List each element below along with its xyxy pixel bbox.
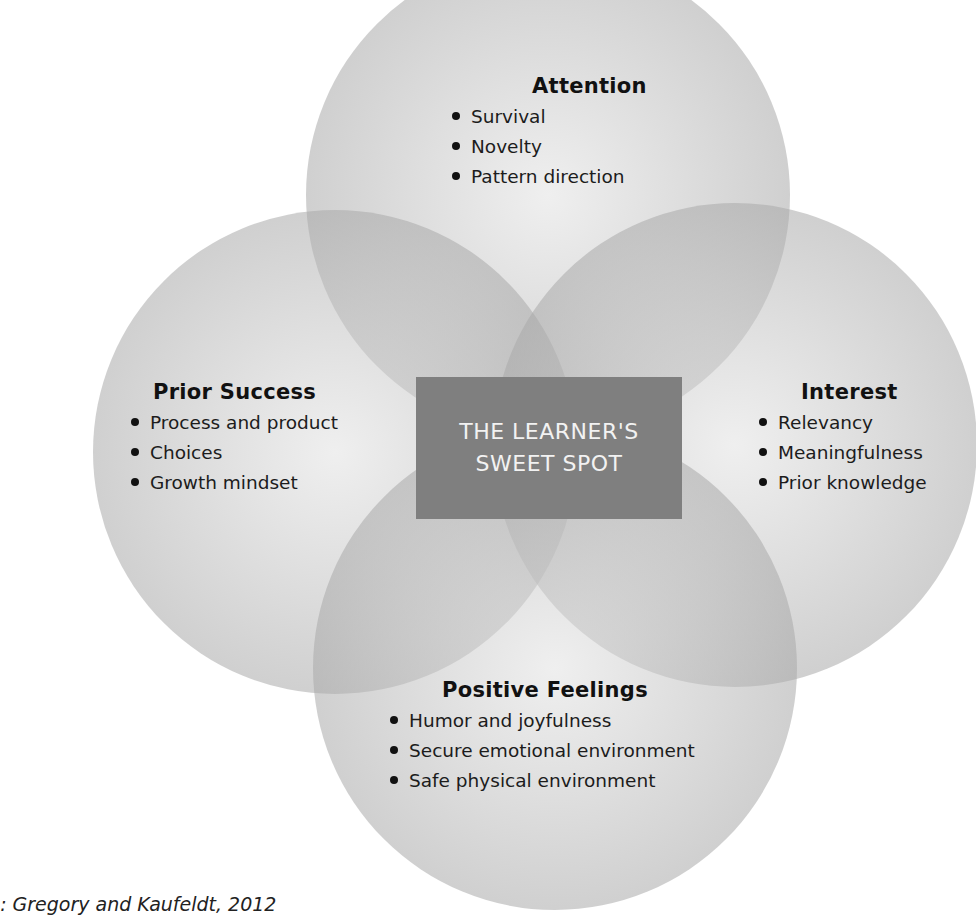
list-item: Survival xyxy=(452,102,647,132)
interest-title: Interest xyxy=(801,380,927,404)
source-caption: ce: Gregory and Kaufeldt, 2012 xyxy=(0,893,276,915)
bullet-icon xyxy=(390,746,398,754)
bullet-icon xyxy=(390,776,398,784)
list-item: Secure emotional environment xyxy=(390,736,695,766)
positive-feelings-group: Positive Feelings Humor and joyfulness S… xyxy=(390,678,695,796)
list-item: Choices xyxy=(131,438,338,468)
sweet-spot-line2: SWEET SPOT xyxy=(476,448,623,480)
bullet-icon xyxy=(452,142,460,150)
prior-success-title: Prior Success xyxy=(153,380,338,404)
list-item: Growth mindset xyxy=(131,468,338,498)
prior-success-group: Prior Success Process and product Choice… xyxy=(131,380,338,498)
bullet-icon xyxy=(452,112,460,120)
list-item: Relevancy xyxy=(759,408,927,438)
bullet-icon xyxy=(759,448,767,456)
positive-feelings-title: Positive Feelings xyxy=(442,678,695,702)
list-item: Prior knowledge xyxy=(759,468,927,498)
attention-list: Survival Novelty Pattern direction xyxy=(452,102,647,192)
sweet-spot-line1: THE LEARNER'S xyxy=(459,416,639,448)
list-item: Humor and joyfulness xyxy=(390,706,695,736)
attention-title: Attention xyxy=(532,74,647,98)
list-item: Safe physical environment xyxy=(390,766,695,796)
attention-group: Attention Survival Novelty Pattern direc… xyxy=(452,74,647,192)
sweet-spot-box: THE LEARNER'S SWEET SPOT xyxy=(416,377,682,519)
list-item: Novelty xyxy=(452,132,647,162)
bullet-icon xyxy=(131,418,139,426)
interest-group: Interest Relevancy Meaningfulness Prior … xyxy=(759,380,927,498)
bullet-icon xyxy=(390,716,398,724)
interest-list: Relevancy Meaningfulness Prior knowledge xyxy=(759,408,927,498)
bullet-icon xyxy=(452,172,460,180)
prior-success-list: Process and product Choices Growth minds… xyxy=(131,408,338,498)
bullet-icon xyxy=(131,448,139,456)
bullet-icon xyxy=(759,478,767,486)
list-item: Meaningfulness xyxy=(759,438,927,468)
list-item: Process and product xyxy=(131,408,338,438)
list-item: Pattern direction xyxy=(452,162,647,192)
positive-feelings-list: Humor and joyfulness Secure emotional en… xyxy=(390,706,695,796)
bullet-icon xyxy=(759,418,767,426)
bullet-icon xyxy=(131,478,139,486)
